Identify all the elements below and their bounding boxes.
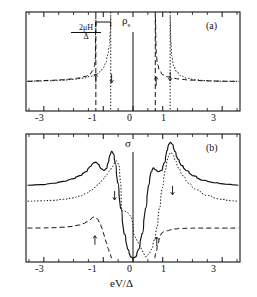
curve-spin-up bbox=[170, 17, 238, 81]
panel-a-xtick-1: -1 bbox=[88, 112, 97, 123]
panel-b-curves bbox=[27, 142, 238, 262]
spin-arrow bbox=[94, 74, 98, 83]
panel-b-xtick-2: 0 bbox=[127, 263, 133, 274]
zeeman-annotation: 2μH Δ bbox=[70, 24, 102, 42]
panel-b-ylabel: σ bbox=[125, 137, 131, 149]
panel-a-xtick-0: -3 bbox=[35, 112, 44, 123]
figure-container: ρs (a) 2μH Δ -3 -1 0 1 3 σ (b) -3 -1 0 1… bbox=[0, 0, 257, 297]
spin-arrow bbox=[93, 236, 97, 245]
panel-b-xtick-0: -3 bbox=[35, 263, 44, 274]
panel-a-xtick-2: 0 bbox=[127, 112, 133, 123]
panel-a-label: (a) bbox=[206, 20, 217, 31]
spin-arrow bbox=[113, 191, 117, 200]
panel-b-xtick-1: -1 bbox=[88, 263, 97, 274]
panel-a-xtick-4: 3 bbox=[211, 112, 217, 123]
curve-spin-down bbox=[27, 217, 111, 258]
panel-b-xtick-4: 3 bbox=[211, 263, 217, 274]
zeeman-denominator: Δ bbox=[70, 33, 102, 41]
spin-arrow bbox=[168, 72, 172, 81]
curve-spin-down bbox=[155, 17, 238, 81]
spin-arrow bbox=[110, 74, 114, 83]
panel-b-xtick-3: 1 bbox=[161, 263, 167, 274]
spin-arrow bbox=[171, 186, 175, 195]
spin-arrow bbox=[155, 237, 159, 246]
x-axis-title: eV/Δ bbox=[110, 277, 133, 289]
curve-spin-down bbox=[154, 228, 238, 258]
panel-a-xtick-3: 1 bbox=[161, 112, 167, 123]
panel-b-label: (b) bbox=[206, 142, 218, 153]
panel-a-ylabel: ρs bbox=[122, 14, 130, 29]
zeeman-numerator: 2μH bbox=[70, 24, 102, 32]
